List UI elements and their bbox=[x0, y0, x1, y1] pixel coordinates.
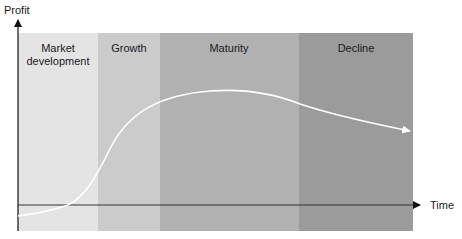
phase-label-decline: Decline bbox=[338, 42, 375, 54]
phase-band-growth bbox=[98, 33, 160, 231]
phase-band-maturity bbox=[160, 33, 299, 231]
x-axis-label: Time bbox=[430, 199, 454, 211]
phase-band-decline bbox=[299, 33, 413, 231]
phase-label-maturity: Maturity bbox=[209, 42, 249, 54]
phase-label-market-line1: Market bbox=[41, 42, 75, 54]
product-life-cycle-diagram: Market development Growth Maturity Decli… bbox=[0, 0, 462, 239]
y-axis-label: Profit bbox=[4, 4, 30, 16]
phase-label-growth: Growth bbox=[111, 42, 146, 54]
phase-label-market-line2: development bbox=[27, 55, 90, 67]
